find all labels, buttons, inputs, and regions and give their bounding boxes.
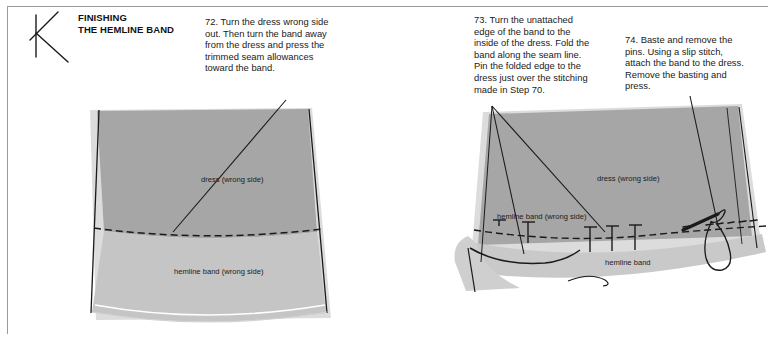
sewing-instruction-page: FINISHING THE HEMLINE BAND 72. Turn the … <box>0 0 768 340</box>
label-left-hemline-band-wrong-side: hemline band (wrong side) <box>174 267 264 276</box>
figure-left-hemline-pressed <box>90 100 331 322</box>
instruction-step-73: 73. Turn the unattached edge of the band… <box>474 14 594 95</box>
section-heading-line2: THE HEMLINE BAND <box>78 24 198 36</box>
instruction-step-74: 74. Baste and remove the pins. Using a s… <box>625 34 747 92</box>
section-heading: FINISHING THE HEMLINE BAND <box>78 12 198 35</box>
section-heading-line1: FINISHING <box>78 12 198 24</box>
section-letter-k-glyph <box>30 12 68 62</box>
left-dress-panel <box>97 109 317 238</box>
instruction-step-72: 72. Turn the dress wrong side out. Then … <box>205 16 329 74</box>
label-right-hemline-band: hemline band <box>605 258 651 267</box>
label-left-dress-wrong-side: dress (wrong side) <box>201 175 263 184</box>
label-right-dress-wrong-side: dress (wrong side) <box>597 174 659 183</box>
label-right-hemline-band-wrong-side: hemline band (wrong side) <box>497 212 587 221</box>
left-hemline-band-panel <box>92 231 326 322</box>
right-thread-curl <box>568 276 608 286</box>
